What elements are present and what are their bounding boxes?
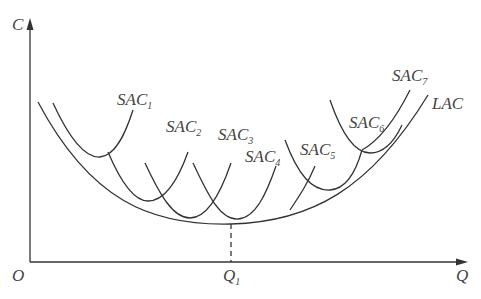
sac5-right-branch [290, 166, 315, 210]
x-axis-label: Q [456, 266, 468, 285]
sac3-curve [145, 163, 231, 218]
sac2-curve [108, 152, 188, 201]
origin-label: O [12, 266, 24, 285]
sac3-label: SAC3 [218, 125, 253, 146]
cost-curve-diagram: C O Q Q1 SAC1 SAC2 SAC3 SAC4 SAC5 SAC6 S… [0, 0, 481, 299]
y-axis-label: C [12, 15, 24, 34]
sac5-label: SAC5 [300, 140, 335, 161]
sac2-label: SAC2 [166, 117, 201, 138]
sac1-label: SAC1 [117, 90, 152, 111]
y-axis-arrow-icon [27, 18, 34, 30]
x-axis-arrow-icon [456, 259, 468, 266]
sac1-curve [53, 103, 133, 157]
sac6-label: SAC6 [349, 113, 384, 134]
q1-label: Q1 [223, 266, 240, 287]
lac-label: LAC [431, 94, 464, 113]
sac4-label: SAC4 [245, 147, 280, 168]
sac7-label: SAC7 [392, 66, 428, 87]
